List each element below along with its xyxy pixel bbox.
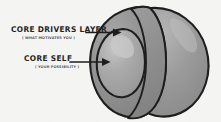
annotation-subtitle: ( WHAT MOTIVATES YOU ) <box>22 36 107 41</box>
annotation-group: CORE DRIVERS LAYER ( WHAT MOTIVATES YOU … <box>0 0 125 122</box>
diagram-canvas: CORE DRIVERS LAYER ( WHAT MOTIVATES YOU … <box>0 0 221 122</box>
annotation-subtitle: ( YOUR POSSIBILITY ) <box>35 65 79 70</box>
annotation-core-drivers-layer: CORE DRIVERS LAYER ( WHAT MOTIVATES YOU … <box>11 25 107 41</box>
annotation-title: CORE SELF <box>24 54 79 64</box>
annotation-title: CORE DRIVERS LAYER <box>11 25 107 35</box>
annotation-core-self: CORE SELF ( YOUR POSSIBILITY ) <box>24 54 79 70</box>
